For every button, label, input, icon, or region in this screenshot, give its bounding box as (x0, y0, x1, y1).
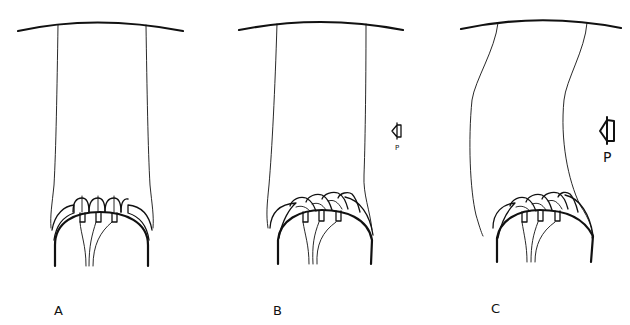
panel-label: B (273, 303, 282, 318)
left-cap (270, 203, 296, 238)
arrow-icon (600, 117, 614, 144)
right-cap (128, 205, 152, 240)
arrow-icon (392, 123, 401, 139)
panel-label: A (54, 303, 63, 318)
panel-label: C (491, 301, 500, 316)
left-wall (470, 23, 498, 236)
panel-a: A (18, 23, 183, 319)
top-surface-curve (18, 23, 183, 32)
direction-arrow: P (392, 123, 401, 152)
cilia-row (290, 192, 360, 212)
top-surface-curve (239, 22, 403, 30)
panel-c: P C (461, 20, 621, 316)
base-arch (278, 210, 372, 264)
basal-bodies (80, 213, 117, 222)
top-surface-curve (461, 20, 621, 29)
panel-b: P B (239, 22, 403, 318)
base-arch (497, 210, 593, 262)
rootlets (522, 222, 555, 262)
left-cap (493, 203, 515, 238)
cilia-row (73, 196, 128, 212)
figure: A P B (0, 0, 630, 325)
direction-arrow: P (600, 117, 614, 165)
rootlets (303, 222, 336, 264)
arrow-label: P (603, 149, 611, 165)
basal-bodies (522, 211, 560, 222)
right-wall (364, 24, 372, 230)
arrow-label: P (395, 144, 399, 152)
right-wall (146, 25, 153, 228)
left-wall (267, 24, 277, 228)
left-wall (51, 25, 58, 228)
rootlets (80, 222, 112, 266)
basal-bodies (303, 211, 341, 222)
left-cap (52, 205, 74, 240)
